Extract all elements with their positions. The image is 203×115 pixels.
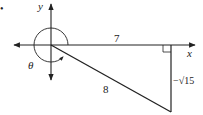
hypotenuse [51, 45, 171, 112]
bullet-marker: • [0, 3, 4, 14]
hypotenuse-label: 8 [103, 83, 109, 95]
x-axis-label: x [186, 47, 192, 59]
angle-label: θ [28, 59, 34, 71]
adjacent-side-label: 7 [114, 32, 120, 44]
right-angle-marker [163, 45, 171, 52]
opposite-side-label: −√15 [173, 75, 194, 86]
trig-diagram: • y x 7 8 −√15 θ [0, 0, 203, 115]
y-axis-label: y [37, 0, 43, 12]
